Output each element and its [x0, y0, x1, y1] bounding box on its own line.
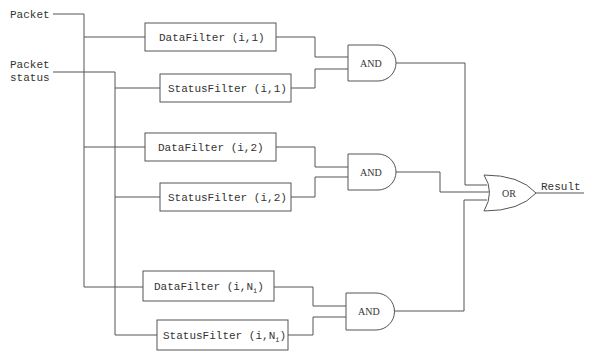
data-filter-n: DataFilter (i,Ni) — [143, 271, 274, 301]
svg-text:DataFilter (i,2): DataFilter (i,2) — [158, 142, 264, 154]
svg-text:StatusFilter (i,1): StatusFilter (i,1) — [168, 83, 287, 95]
status-filter-n: StatusFilter (i,Ni) — [157, 320, 288, 350]
svg-text:AND: AND — [360, 167, 382, 178]
output-label-result: Result — [541, 181, 581, 193]
input-label-packet-status-line2: status — [10, 72, 50, 84]
data-filter-2: DataFilter (i,2) — [145, 133, 276, 161]
status-filter-2: StatusFilter (i,2) — [160, 183, 291, 211]
logic-diagram: Packet Packet status DataFilter (i,1) St… — [0, 0, 593, 359]
status-filter-1: StatusFilter (i,1) — [160, 74, 291, 102]
and-gate-2: AND — [348, 154, 396, 190]
svg-text:DataFilter (i,1): DataFilter (i,1) — [159, 32, 265, 44]
svg-text:DataFilter (i,Ni): DataFilter (i,Ni) — [154, 281, 264, 295]
and-gate-3: AND — [346, 293, 395, 330]
data-filter-1: DataFilter (i,1) — [145, 23, 276, 51]
input-label-packet: Packet — [10, 9, 50, 21]
svg-text:AND: AND — [358, 306, 380, 317]
svg-text:OR: OR — [502, 188, 516, 199]
svg-text:AND: AND — [360, 58, 382, 69]
and-gate-1: AND — [348, 45, 396, 81]
svg-text:StatusFilter (i,2): StatusFilter (i,2) — [168, 192, 287, 204]
or-gate: OR — [484, 175, 536, 211]
packet-bus — [53, 14, 145, 287]
input-label-packet-status-line1: Packet — [10, 59, 50, 71]
svg-text:StatusFilter (i,Ni): StatusFilter (i,Ni) — [163, 330, 286, 344]
